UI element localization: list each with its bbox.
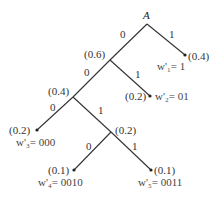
code-w5: w'₅= 0011 — [138, 176, 182, 188]
code-w4: w'₄= 0010 — [38, 176, 83, 188]
bit-06-1: 1 — [135, 68, 141, 80]
huffman-tree-diagram: A 0 1 0 1 0 1 0 1 (0.6) (0.4) (0.2) (0.4… — [0, 0, 216, 205]
code-w1: w'₁= 1 — [157, 60, 185, 72]
bit-02-0: 0 — [86, 140, 92, 152]
bit-root-1: 1 — [169, 28, 175, 40]
edge-04-1 — [73, 97, 111, 132]
bit-06-0: 0 — [84, 66, 90, 78]
code-w2: w'₂= 01 — [155, 90, 189, 102]
edge-06-0 — [73, 60, 110, 97]
bit-02-1: 1 — [132, 140, 138, 152]
code-w3: w'₃= 000 — [16, 136, 56, 148]
edge-root-1 — [147, 24, 185, 55]
prob-node-06: (0.6) — [84, 48, 105, 61]
leaf-dot-w3 — [35, 128, 38, 131]
leaf-dot-w2 — [148, 94, 151, 97]
prob-leaf-w2: (0.2) — [125, 90, 146, 103]
edge-root-0 — [110, 24, 147, 60]
prob-leaf-w1: (0.4) — [188, 50, 209, 63]
leaf-dot-w5 — [149, 168, 152, 171]
bit-04-1: 1 — [98, 104, 104, 116]
leaf-dot-w1 — [183, 53, 186, 56]
prob-node-04: (0.4) — [48, 85, 69, 98]
edge-02-0 — [74, 132, 111, 170]
edge-02-1 — [111, 132, 151, 170]
prob-node-02: (0.2) — [115, 124, 136, 137]
bit-root-0: 0 — [120, 28, 126, 40]
bit-04-0: 0 — [50, 101, 56, 113]
root-label: A — [142, 9, 150, 21]
leaf-dot-w4 — [72, 168, 75, 171]
